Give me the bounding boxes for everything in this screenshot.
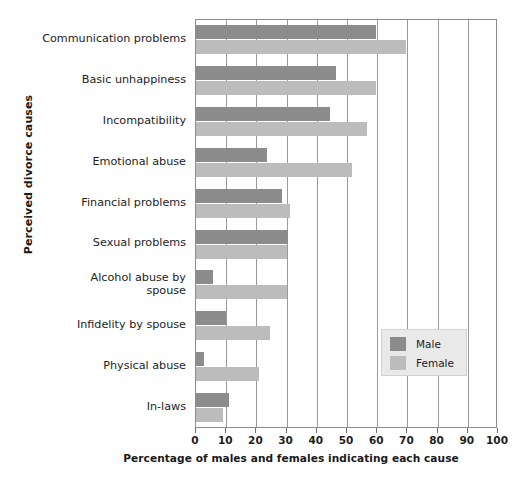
- x-axis-title: Percentage of males and females indicati…: [0, 452, 522, 464]
- tick-mark: [316, 428, 317, 433]
- bar-female: [196, 122, 367, 136]
- legend-swatch-female-icon: [390, 356, 406, 370]
- category-label: Sexual problems: [36, 236, 186, 249]
- bar-male: [196, 148, 267, 162]
- bar-female: [196, 163, 352, 177]
- category-label: Infidelity by spouse: [36, 318, 186, 331]
- y-axis-title: Perceived divorce causes: [22, 75, 35, 275]
- legend: Male Female: [381, 329, 467, 376]
- category-label: In-laws: [36, 400, 186, 413]
- bar-male: [196, 107, 330, 121]
- legend-item-male: Male: [390, 336, 441, 352]
- bar-male: [196, 25, 376, 39]
- tick-mark: [255, 428, 256, 433]
- bar-male: [196, 230, 288, 244]
- category-label: Emotional abuse: [36, 155, 186, 168]
- bar-male: [196, 393, 229, 407]
- category-label: Financial problems: [36, 196, 186, 209]
- category-label: Physical abuse: [36, 359, 186, 372]
- x-axis-tick-labels: 0102030405060708090100: [145, 434, 522, 450]
- tick-mark: [225, 428, 226, 433]
- legend-item-female: Female: [390, 355, 454, 371]
- tick-mark: [497, 428, 498, 433]
- bar-female: [196, 40, 406, 54]
- category-label: Basic unhappiness: [36, 73, 186, 86]
- tick-mark: [286, 428, 287, 433]
- bar-male: [196, 66, 336, 80]
- y-axis-category-labels: Communication problemsBasic unhappinessI…: [40, 19, 190, 428]
- legend-swatch-male-icon: [390, 337, 406, 351]
- bar-male: [196, 189, 282, 203]
- bar-male: [196, 311, 226, 325]
- bar-female: [196, 367, 259, 381]
- bar-female: [196, 245, 287, 259]
- tick-mark: [406, 428, 407, 433]
- bar-male: [196, 352, 204, 366]
- tick-mark: [467, 428, 468, 433]
- gridline: [377, 20, 378, 427]
- tick-mark: [437, 428, 438, 433]
- tick-mark: [346, 428, 347, 433]
- legend-label-female: Female: [416, 357, 454, 369]
- tick-mark: [195, 428, 196, 433]
- tick-mark: [376, 428, 377, 433]
- bar-male: [196, 270, 213, 284]
- category-label: Incompatibility: [36, 114, 186, 127]
- bar-female: [196, 81, 376, 95]
- category-label: Alcohol abuse by spouse: [76, 271, 186, 297]
- legend-label-male: Male: [416, 338, 441, 350]
- gridline: [468, 20, 469, 427]
- bar-female: [196, 204, 290, 218]
- x-tick-label: 100: [477, 434, 517, 446]
- bar-female: [196, 408, 223, 422]
- bar-female: [196, 326, 270, 340]
- bar-female: [196, 285, 287, 299]
- category-label: Communication problems: [36, 32, 186, 45]
- bar-chart: Perceived divorce causes Communication p…: [0, 0, 522, 501]
